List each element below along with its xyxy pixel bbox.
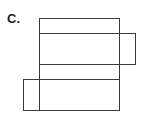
bottom-face — [40, 65, 120, 80]
top-face — [40, 19, 120, 34]
left-side-flap — [24, 80, 40, 111]
right-side-flap — [120, 34, 136, 65]
front-face — [40, 34, 120, 65]
prism-net-diagram — [0, 0, 147, 121]
back-face — [40, 80, 120, 111]
